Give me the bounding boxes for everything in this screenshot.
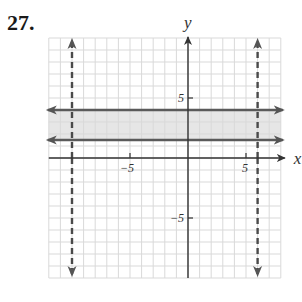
coordinate-plane-chart: −555−5xy: [0, 0, 302, 302]
y-axis-label: y: [182, 13, 192, 32]
x-axis-label: x: [293, 149, 302, 168]
x-tick-label: 5: [242, 161, 248, 175]
y-tick-label: 5: [178, 91, 184, 105]
y-tick-label: −5: [170, 211, 184, 225]
x-tick-label: −5: [120, 161, 134, 175]
